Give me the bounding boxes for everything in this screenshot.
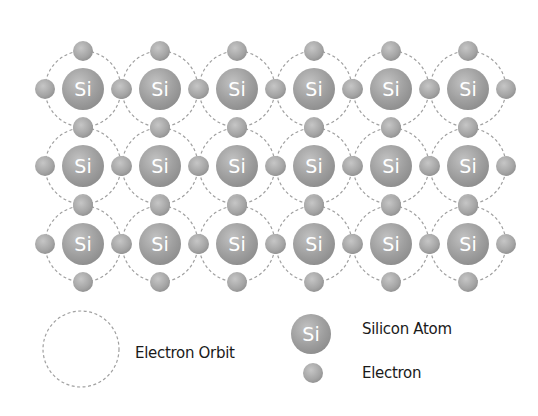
silicon-atom: Si — [62, 68, 104, 110]
silicon-atom: Si — [370, 68, 412, 110]
electron — [381, 272, 401, 292]
electron — [381, 196, 401, 216]
silicon-atom: Si — [447, 68, 489, 110]
atom-symbol: Si — [228, 78, 245, 100]
electron — [458, 118, 478, 138]
silicon-atom: Si — [447, 223, 489, 265]
atom-symbol: Si — [382, 155, 399, 177]
atom-symbol: Si — [305, 155, 322, 177]
electron — [189, 234, 209, 254]
silicon-atom: Si — [139, 68, 181, 110]
electron — [266, 79, 286, 99]
svg-text:Si: Si — [302, 323, 319, 345]
electron — [458, 196, 478, 216]
silicon-atom: Si — [216, 68, 258, 110]
silicon-atom: Si — [62, 223, 104, 265]
silicon-atom: Si — [370, 145, 412, 187]
electron — [420, 234, 440, 254]
legend-atom-label: Silicon Atom — [362, 320, 452, 338]
electron — [266, 234, 286, 254]
atom-symbol: Si — [151, 155, 168, 177]
electron — [150, 272, 170, 292]
legend-electron-label: Electron — [362, 364, 421, 382]
electron — [73, 272, 93, 292]
electron — [420, 156, 440, 176]
silicon-atom: Si — [370, 223, 412, 265]
electron — [227, 196, 247, 216]
atom-symbol: Si — [459, 155, 476, 177]
electron — [35, 234, 55, 254]
atom-symbol: Si — [459, 233, 476, 255]
electron — [150, 118, 170, 138]
atom-symbol: Si — [74, 78, 91, 100]
electron — [35, 156, 55, 176]
silicon-atom: Si — [447, 145, 489, 187]
electron — [304, 118, 324, 138]
electron — [73, 41, 93, 61]
electron — [304, 272, 324, 292]
electron — [343, 234, 363, 254]
atom-symbol: Si — [305, 233, 322, 255]
legend-orbit-icon — [43, 311, 119, 387]
electron — [35, 79, 55, 99]
electron — [304, 196, 324, 216]
legend-orbit-label: Electron Orbit — [135, 344, 235, 362]
atom-symbol: Si — [151, 78, 168, 100]
electron — [496, 156, 516, 176]
silicon-atom: Si — [216, 223, 258, 265]
electron — [420, 79, 440, 99]
electron — [73, 118, 93, 138]
electrons — [35, 41, 516, 292]
atom-symbol: Si — [382, 233, 399, 255]
electron — [112, 234, 132, 254]
electron — [381, 41, 401, 61]
electron — [189, 79, 209, 99]
electron — [266, 156, 286, 176]
silicon-atom: Si — [293, 223, 335, 265]
legend-atom-icon: Si — [291, 314, 331, 354]
electron — [496, 79, 516, 99]
electron — [227, 41, 247, 61]
electron — [112, 156, 132, 176]
electron — [381, 118, 401, 138]
silicon-atom: Si — [293, 68, 335, 110]
silicon-atom: Si — [216, 145, 258, 187]
silicon-atom: Si — [293, 145, 335, 187]
silicon-atom: Si — [139, 145, 181, 187]
atom-symbol: Si — [382, 78, 399, 100]
electron — [343, 156, 363, 176]
atom-symbol: Si — [151, 233, 168, 255]
electron — [458, 41, 478, 61]
electron — [227, 118, 247, 138]
atom-symbol: Si — [228, 155, 245, 177]
electron — [496, 234, 516, 254]
electron — [189, 156, 209, 176]
legend-electron-icon — [303, 363, 323, 383]
electron — [343, 79, 363, 99]
silicon-lattice-diagram: SiSiSiSiSiSiSiSiSiSiSiSiSiSiSiSiSiSi Si — [0, 0, 538, 416]
silicon-atom: Si — [139, 223, 181, 265]
atom-symbol: Si — [74, 155, 91, 177]
electron — [227, 272, 247, 292]
electron — [304, 41, 324, 61]
atom-symbol: Si — [305, 78, 322, 100]
electron — [458, 272, 478, 292]
atom-symbol: Si — [459, 78, 476, 100]
silicon-atom: Si — [62, 145, 104, 187]
electron — [150, 41, 170, 61]
atom-symbol: Si — [228, 233, 245, 255]
electron — [150, 196, 170, 216]
electron — [112, 79, 132, 99]
atom-symbol: Si — [74, 233, 91, 255]
electron — [73, 196, 93, 216]
